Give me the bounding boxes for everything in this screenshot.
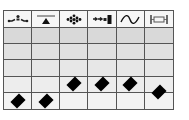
grid-cell-r5-c3[interactable] <box>60 93 88 109</box>
diamond-marker-icon[interactable] <box>38 93 53 108</box>
flow-connector-icon <box>7 14 29 25</box>
column-header-5[interactable] <box>117 11 145 28</box>
grid-cell-r3-c4[interactable] <box>88 60 116 76</box>
grid-cell-r5-c5[interactable] <box>117 93 145 109</box>
grid-cell-r1-c3[interactable] <box>60 28 88 44</box>
grid-cell-r2-c4[interactable] <box>88 44 116 60</box>
diamond-marker-icon[interactable] <box>10 93 25 108</box>
grid-cell-r3-c3[interactable] <box>60 60 88 76</box>
grid-cell-r1-c2[interactable] <box>32 28 60 44</box>
diamond-marker-icon[interactable] <box>66 77 81 92</box>
grid-cell-r3-c1[interactable] <box>4 60 32 76</box>
triangle-on-line-icon <box>35 14 57 25</box>
grid-cell-r3-c6[interactable] <box>145 60 173 76</box>
arrows-to-bar-icon <box>91 14 113 25</box>
dot-cluster-icon <box>63 14 85 25</box>
grid-cell-r5-c2[interactable] <box>32 93 60 109</box>
grid-cell-r3-c5[interactable] <box>117 60 145 76</box>
column-header-3[interactable] <box>60 11 88 28</box>
grid-cell-r1-c6[interactable] <box>145 28 173 44</box>
grid-cell-r2-c2[interactable] <box>32 44 60 60</box>
grid-cell-r1-c4[interactable] <box>88 28 116 44</box>
column-header-4[interactable] <box>88 11 116 28</box>
grid-cell-r2-c3[interactable] <box>60 44 88 60</box>
grid-cell-r3-c2[interactable] <box>32 60 60 76</box>
grid-cell-r4-c4[interactable] <box>88 77 116 93</box>
grid-cell-r4-c2[interactable] <box>32 77 60 93</box>
bracketed-box-icon <box>148 14 170 25</box>
grid-cell-r2-c1[interactable] <box>4 44 32 60</box>
diamond-marker-icon[interactable] <box>123 77 138 92</box>
symbol-grid <box>3 10 174 110</box>
sine-wave-icon <box>119 14 141 25</box>
column-header-1[interactable] <box>4 11 32 28</box>
column-header-2[interactable] <box>32 11 60 28</box>
grid-cell-r2-c5[interactable] <box>117 44 145 60</box>
grid-cell-r5-c1[interactable] <box>4 93 32 109</box>
grid-cell-r2-c6[interactable] <box>145 44 173 60</box>
grid-cell-r4-c3[interactable] <box>60 77 88 93</box>
grid-cell-r1-c5[interactable] <box>117 28 145 44</box>
grid-cell-r4-c1[interactable] <box>4 77 32 93</box>
grid-cell-r4-c6[interactable] <box>145 77 173 93</box>
grid-cell-r5-c4[interactable] <box>88 93 116 109</box>
diamond-marker-icon[interactable] <box>94 77 109 92</box>
column-header-6[interactable] <box>145 11 173 28</box>
grid-cell-r4-c5[interactable] <box>117 77 145 93</box>
grid-cell-r1-c1[interactable] <box>4 28 32 44</box>
